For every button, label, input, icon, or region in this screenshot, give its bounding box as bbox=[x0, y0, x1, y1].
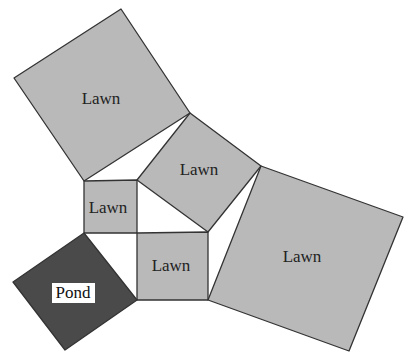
garden-diagram: LawnLawnLawnLawnLawnPond bbox=[0, 0, 407, 361]
lawn-label: Lawn bbox=[89, 198, 128, 217]
lawn-label: Lawn bbox=[152, 256, 191, 275]
pond-label: Pond bbox=[56, 283, 91, 302]
lawn-label: Lawn bbox=[180, 160, 219, 179]
garden-plan-svg: LawnLawnLawnLawnLawnPond bbox=[0, 0, 407, 361]
lawn-label: Lawn bbox=[283, 247, 322, 266]
lawn-label: Lawn bbox=[82, 89, 121, 108]
